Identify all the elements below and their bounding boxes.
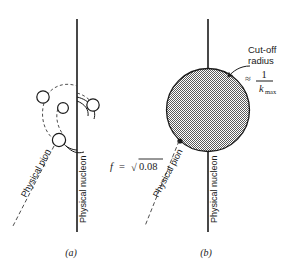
cutoff-fraction-numerator: 1: [261, 69, 266, 80]
formula-value: 0.08: [139, 161, 157, 172]
coupling-formula: f = √ 0.08: [110, 159, 163, 173]
cutoff-radius-label-line2: radius: [248, 55, 274, 66]
panel-a-caption: (a): [65, 247, 77, 259]
panel-a-quantum-circle: [87, 99, 99, 111]
formula-symbol: f: [110, 161, 115, 172]
panel-a-quantum-circle: [37, 91, 49, 103]
cutoff-fraction-denominator: k: [259, 83, 264, 94]
panel-a: Physical pion Physical nucleon (a): [13, 19, 99, 259]
cutoff-approx-symbol: ≈: [245, 73, 251, 84]
panel-b: Cut-off radius ≈ 1 k max Physical pion P…: [145, 19, 277, 259]
panel-b-caption: (b): [200, 247, 212, 259]
physics-diagram-figure: Physical pion Physical nucleon (a) Cut-o…: [0, 0, 291, 266]
formula-radical-sign: √: [131, 162, 137, 173]
panel-b-nucleon-label: Physical nucleon: [209, 155, 219, 223]
panel-a-nucleon-label: Physical nucleon: [78, 155, 88, 223]
panel-a-quantum-circle: [58, 103, 69, 114]
panel-a-cloud-loop-top: [47, 84, 77, 95]
formula-equals: =: [119, 161, 125, 172]
panel-b-pion-label: Physical pion: [151, 147, 185, 199]
panel-a-pion-label: Physical pion: [19, 147, 53, 199]
cutoff-fraction-denominator-subscript: max: [265, 88, 277, 95]
panel-a-quantum-circle: [52, 133, 65, 146]
diagram-canvas: Physical pion Physical nucleon (a) Cut-o…: [0, 0, 291, 266]
cutoff-radius-label-line1: Cut-off: [248, 44, 277, 55]
